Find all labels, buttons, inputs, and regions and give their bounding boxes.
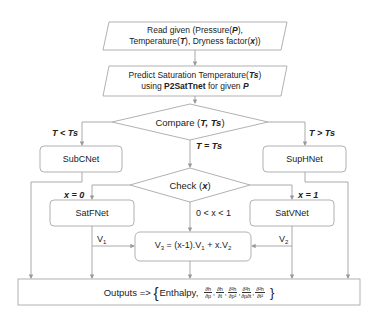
compare-text: Compare (: [155, 117, 200, 128]
predict-text: for given: [206, 81, 243, 91]
read-text: ), Dryness factor(: [185, 36, 250, 46]
frac-num: ∂h: [204, 286, 212, 293]
predict-text: ): [259, 70, 262, 80]
var-ts: Ts: [249, 70, 259, 80]
deriv-dh-dp: ∂h∂p: [204, 286, 212, 299]
combine-node: V3 = (x-1).V1 + x.V2: [135, 232, 251, 261]
predict-text: Predict Saturation Temperature(: [129, 70, 249, 80]
read-text: )): [255, 36, 261, 46]
edge-label-t-equal-ts: T = Ts: [196, 141, 222, 151]
subscript: 1: [103, 239, 106, 245]
predict-text: using: [141, 81, 164, 91]
outputs-prefix: Outputs =>: [104, 287, 154, 298]
edge-label-x-between: 0 < x < 1: [196, 208, 231, 218]
read-input-node: Read given (Pressure(P), Temperature(T),…: [103, 22, 287, 50]
read-text: Temperature(: [129, 36, 180, 46]
brace-open: {: [153, 287, 158, 298]
frac-den: ∂t: [218, 293, 222, 299]
frac-num: ∂h: [216, 286, 224, 293]
subscript: 2: [228, 245, 231, 251]
satfnet-node: SatFNet: [50, 200, 134, 226]
deriv-d2h-dpdt: ∂²h∂p∂t: [241, 286, 251, 299]
frac-num: ∂²h: [242, 286, 252, 293]
edge-label-v1: V1: [97, 234, 106, 245]
compare-vars: T, Ts: [200, 117, 221, 128]
frac-num: ∂²h: [228, 286, 238, 293]
check-decision: Check (x): [150, 176, 230, 194]
edge-label-x-zero: x = 0: [64, 190, 84, 200]
frac-den: ∂t²: [257, 293, 263, 299]
frac-num: ∂²h: [255, 286, 265, 293]
edge-label-t-greater-ts: T > Ts: [309, 128, 335, 138]
read-text: Read given (Pressure(: [147, 25, 232, 35]
edge-label-t-less-ts: T < Ts: [52, 128, 78, 138]
model-name: P2SatTnet: [164, 81, 206, 91]
frac-den: ∂p²: [229, 293, 237, 299]
deriv-d2h-dt2: ∂²h∂t²: [255, 286, 265, 299]
frac-den: ∂p: [205, 293, 211, 299]
satvnet-node: SatVNet: [250, 200, 334, 226]
edge-label-v2: V2: [279, 234, 288, 245]
edge-label-x-one: x = 1: [298, 190, 318, 200]
subcnet-node: SubCNet: [40, 146, 122, 172]
combine-text: + x.V: [205, 240, 228, 250]
check-text: Check (: [169, 180, 202, 191]
brace-close: }: [270, 287, 274, 298]
predict-node: Predict Saturation Temperature(Ts) using…: [103, 66, 287, 96]
deriv-d2h-dp2: ∂²h∂p²: [228, 286, 238, 299]
var-p: P: [243, 81, 249, 91]
combine-text: = (x-1).V: [164, 240, 201, 250]
check-text: ): [207, 180, 210, 191]
subscript: 2: [285, 239, 288, 245]
deriv-dh-dt: ∂h∂t: [216, 286, 224, 299]
compare-decision: Compare (T, Ts): [140, 112, 240, 132]
read-text: ),: [238, 25, 243, 35]
compare-text: ): [221, 117, 224, 128]
enthalpy-label: Enthalpy,: [159, 287, 198, 298]
frac-den: ∂p∂t: [241, 293, 251, 299]
outputs-node: Outputs => { Enthalpy, ∂h∂p, ∂h∂t, ∂²h∂p…: [18, 279, 360, 305]
suphnet-node: SupHNet: [263, 146, 346, 172]
